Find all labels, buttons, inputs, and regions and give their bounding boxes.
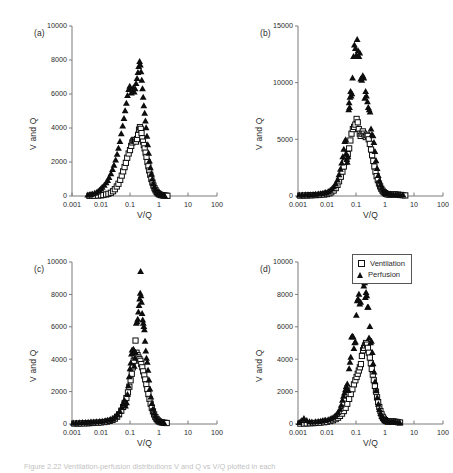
y-tick-label: 2000 <box>32 157 67 166</box>
x-axis-label: V/Q <box>72 210 217 220</box>
y-tick-label: 10000 <box>258 78 293 87</box>
panel-a-plot <box>0 0 453 473</box>
y-tick-label: 10000 <box>32 257 67 266</box>
figure-caption: Figure 2.22 Ventilation-perfusion distri… <box>24 462 434 472</box>
legend-label: Ventilation <box>370 259 405 268</box>
y-tick-label: 6000 <box>32 322 67 331</box>
panel-c-plot <box>0 0 453 473</box>
y-tick-label: 8000 <box>32 290 67 299</box>
panel-d-plot <box>0 0 453 473</box>
legend-item-ventilation: Ventilation <box>357 258 405 269</box>
x-tick-label: 100 <box>426 428 453 437</box>
figure-ventilation-perfusion-distributions: (a)V and QV/Q02000400060008000100000.001… <box>0 0 453 473</box>
y-tick-label: 2000 <box>258 387 293 396</box>
filled-triangle-icon <box>357 272 363 278</box>
y-tick-label: 6000 <box>258 322 293 331</box>
open-square-icon <box>358 260 365 267</box>
y-tick-label: 10000 <box>258 257 293 266</box>
x-axis-label: V/Q <box>72 438 217 448</box>
y-axis-label: V and Q <box>254 117 264 150</box>
y-axis-label: V and Q <box>28 117 38 150</box>
y-tick-label: 10000 <box>32 21 67 30</box>
y-tick-label: 6000 <box>32 89 67 98</box>
y-tick-label: 4000 <box>32 123 67 132</box>
legend-item-perfusion: Perfusion <box>357 269 405 280</box>
y-tick-label: 15000 <box>258 21 293 30</box>
x-axis-label: V/Q <box>298 438 443 448</box>
x-tick-label: 100 <box>200 200 234 209</box>
legend-label: Perfusion <box>368 270 400 279</box>
y-tick-label: 5000 <box>258 135 293 144</box>
y-tick-label: 8000 <box>32 55 67 64</box>
y-tick-label: 8000 <box>258 290 293 299</box>
y-tick-label: 4000 <box>258 355 293 364</box>
x-tick-label: 100 <box>200 428 234 437</box>
legend: VentilationPerfusion <box>352 254 412 284</box>
y-tick-label: 4000 <box>32 355 67 364</box>
panel-b-plot <box>0 0 453 473</box>
x-tick-label: 100 <box>426 200 453 209</box>
y-tick-label: 2000 <box>32 387 67 396</box>
x-axis-label: V/Q <box>298 210 443 220</box>
